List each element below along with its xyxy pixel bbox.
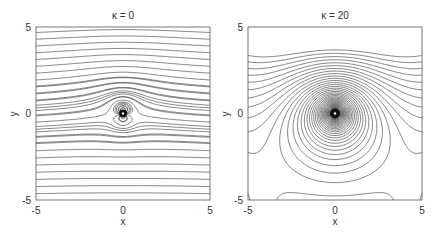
y-axis-label: y — [220, 112, 231, 117]
panel-kappa-0: κ = 0 5 0 -5 -5 0 5 x y — [8, 10, 213, 227]
panel-kappa-20: κ = 20 5 0 -5 -5 0 5 x y — [220, 10, 425, 227]
x-axis-label: x — [121, 216, 126, 227]
streamline — [36, 36, 210, 39]
y-tick-label: -5 — [234, 195, 243, 206]
y-axis-label: y — [8, 112, 19, 117]
panel-title: κ = 0 — [112, 10, 134, 21]
streamline — [36, 157, 210, 158]
streamline — [36, 48, 210, 52]
streamline — [36, 193, 210, 194]
streamline — [36, 30, 210, 33]
streamline — [248, 78, 422, 200]
x-tick-label: 0 — [332, 205, 338, 216]
streamline — [36, 87, 210, 100]
contour-lines — [36, 30, 210, 194]
streamline — [36, 97, 210, 122]
streamline — [36, 179, 210, 180]
figure: κ = 0 5 0 -5 -5 0 5 x y κ = 20 5 0 -5 -5… — [0, 0, 434, 237]
singularity-center — [122, 112, 124, 114]
x-tick-label: 5 — [419, 205, 425, 216]
streamline — [36, 164, 210, 165]
x-tick-label: -5 — [244, 205, 253, 216]
x-tick-label: 0 — [120, 205, 126, 216]
x-tick-label: -5 — [32, 205, 41, 216]
streamline — [36, 186, 210, 187]
streamline — [248, 60, 422, 76]
singularity-center — [334, 112, 336, 114]
streamline — [36, 55, 210, 60]
panel-title: κ = 20 — [321, 10, 349, 21]
x-tick-label: 5 — [207, 205, 213, 216]
streamline — [36, 61, 210, 67]
streamline — [36, 42, 210, 46]
y-tick-label: 0 — [237, 108, 243, 119]
x-axis-label: x — [333, 216, 338, 227]
y-tick-label: -5 — [22, 195, 31, 206]
streamline — [36, 171, 210, 172]
streamline — [36, 149, 210, 150]
y-tick-label: 5 — [237, 22, 243, 33]
y-tick-label: 0 — [25, 108, 31, 119]
streamline — [248, 53, 422, 62]
streamline — [36, 72, 210, 80]
y-tick-label: 5 — [25, 22, 31, 33]
contour-lines — [248, 50, 422, 200]
